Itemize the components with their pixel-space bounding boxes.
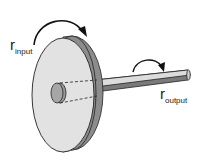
hub bbox=[51, 83, 66, 103]
output-radius-label: routput bbox=[160, 86, 187, 101]
output-radius-subscript: output bbox=[165, 96, 187, 105]
wheel-and-axle-diagram bbox=[0, 0, 204, 162]
output-rotation-arrow-icon bbox=[133, 60, 165, 72]
input-radius-label: rinput bbox=[10, 37, 32, 52]
input-radius-subscript: input bbox=[15, 47, 32, 56]
